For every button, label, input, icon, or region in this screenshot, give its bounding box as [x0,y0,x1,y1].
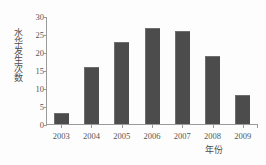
y-tick-mark [43,89,47,90]
x-axis-tick-labels: 2003200420052006200720082009 [46,132,258,144]
y-tick-mark [43,107,47,108]
y-tick-label: 5 [23,103,44,112]
bar [145,28,160,124]
x-tick-label: 2006 [135,132,169,141]
y-tick-label: 20 [23,49,44,58]
bar [54,113,69,124]
x-tick-label: 2003 [44,132,78,141]
x-tick-mark [213,124,214,128]
y-axis-title: 水华发生次数 [9,28,23,82]
y-tick-mark [43,53,47,54]
x-tick-label: 2005 [105,132,139,141]
x-tick-mark [91,124,92,128]
x-tick-mark [152,124,153,128]
x-tick-mark [61,124,62,128]
x-tick-label: 2008 [196,132,230,141]
plot-area [46,17,258,125]
x-tick-label: 2004 [74,132,108,141]
x-tick-mark [182,124,183,128]
y-axis-tick-labels: 051015202530 [23,12,44,128]
bar [235,95,250,124]
x-tick-label: 2009 [226,132,260,141]
x-tick-mark [243,124,244,128]
bar [84,67,99,124]
x-tick-mark [122,124,123,128]
bar-chart: 水华发生次数 051015202530 20032004200520062007… [0,0,266,165]
bar [114,42,129,124]
x-tick-mark [257,124,258,128]
y-tick-mark [43,17,47,18]
y-tick-label: 10 [23,85,44,94]
y-tick-label: 25 [23,31,44,40]
y-tick-label: 30 [23,13,44,22]
bar [175,31,190,124]
y-tick-label: 0 [23,121,44,130]
bar [205,56,220,124]
x-tick-label: 2007 [165,132,199,141]
x-axis-title: 年份 [205,145,223,155]
y-tick-mark [43,35,47,36]
bar-series [47,17,258,124]
y-tick-mark [43,125,47,126]
y-tick-mark [43,71,47,72]
y-tick-label: 15 [23,67,44,76]
